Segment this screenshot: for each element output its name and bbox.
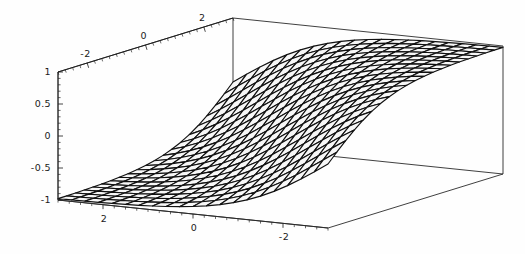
z-tick-label-3: -0.5 [31, 162, 51, 173]
surface-mesh [58, 39, 503, 206]
z-tick-label-4: -1 [41, 194, 51, 205]
x-tick-label-2: -2 [279, 231, 289, 242]
z-tick-label-0: 1 [45, 66, 51, 77]
surface-plot-figure: 10.50-0.5-1-20220-2 [0, 0, 525, 254]
x-tick-label-0: 2 [101, 213, 107, 224]
z-tick-label-2: 0 [45, 130, 51, 141]
z-tick-label-1: 0.5 [35, 98, 51, 109]
y-tick-label-1: 0 [141, 30, 147, 41]
y-tick-label-2: 2 [199, 12, 205, 23]
x-tick-label-1: 0 [191, 222, 197, 233]
y-tick-label-0: -2 [80, 48, 90, 59]
surface-plot-canvas: 10.50-0.5-1-20220-2 [0, 0, 525, 254]
